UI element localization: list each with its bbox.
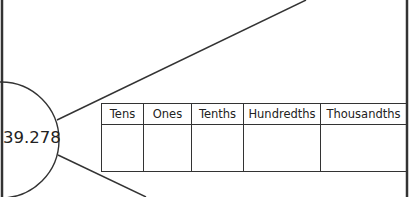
cell-thousandths[interactable] <box>321 125 407 172</box>
header-tenths: Tenths <box>192 104 244 125</box>
upper-callout-line <box>57 0 306 120</box>
table-row <box>102 125 407 172</box>
header-ones: Ones <box>144 104 192 125</box>
header-hundredths: Hundredths <box>244 104 321 125</box>
header-tens: Tens <box>102 104 144 125</box>
cell-tenths[interactable] <box>192 125 244 172</box>
cell-tens[interactable] <box>102 125 144 172</box>
cell-hundredths[interactable] <box>244 125 321 172</box>
decimal-number: 39.278 <box>3 128 61 147</box>
header-thousandths: Thousandths <box>321 104 407 125</box>
place-value-table: Tens Ones Tenths Hundredths Thousandths <box>101 103 407 172</box>
cell-ones[interactable] <box>144 125 192 172</box>
header-row: Tens Ones Tenths Hundredths Thousandths <box>102 104 407 125</box>
